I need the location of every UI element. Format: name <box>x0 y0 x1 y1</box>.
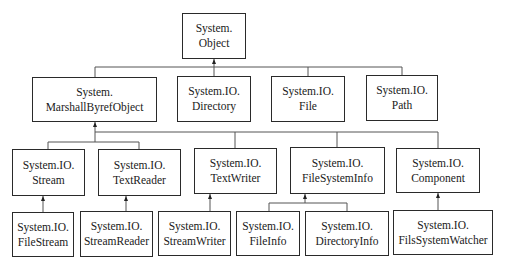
node-line: System.IO. <box>412 156 464 171</box>
arrow-head-icon <box>212 59 216 64</box>
node-stream-reader: System.IO. StreamReader <box>80 211 153 257</box>
node-directory: System.IO. Directory <box>177 76 251 122</box>
node-file-system-watcher: System.IO. FilsSystemWatcher <box>393 210 493 255</box>
node-line: System.IO. <box>188 84 240 99</box>
node-line: System. <box>196 21 233 36</box>
node-text-writer: System.IO. TextWriter <box>194 148 277 194</box>
node-line: System.IO. <box>23 158 75 173</box>
node-line: System.IO. <box>114 158 166 173</box>
node-line: Object <box>199 36 230 51</box>
node-line: System.IO. <box>210 156 262 171</box>
node-line: System. <box>76 85 113 100</box>
node-marshal-byref-object: System. MarshallByrefObject <box>32 77 157 122</box>
node-line: FilsSystemWatcher <box>398 233 487 248</box>
node-line: TextWriter <box>211 171 261 186</box>
node-line: FileInfo <box>249 234 286 249</box>
node-line: System.IO. <box>417 218 469 233</box>
node-line: StreamWriter <box>163 234 225 249</box>
node-line: System.IO. <box>282 84 334 99</box>
node-path: System.IO. Path <box>366 75 438 121</box>
node-line: DirectoryInfo <box>315 234 378 249</box>
node-line: MarshallByrefObject <box>46 100 144 115</box>
node-file: System.IO. File <box>271 76 345 122</box>
node-line: Path <box>392 98 412 113</box>
node-line: Directory <box>192 99 236 114</box>
node-line: System.IO. <box>376 83 428 98</box>
node-line: Stream <box>32 173 65 188</box>
node-system-object: System. Object <box>182 13 246 59</box>
node-line: System.IO. <box>321 219 373 234</box>
node-line: Component <box>411 171 465 186</box>
node-component: System.IO. Component <box>396 148 480 193</box>
node-file-system-info: System.IO. FileSystemInfo <box>290 147 385 194</box>
node-line: System.IO. <box>242 219 294 234</box>
node-line: FileStream <box>18 235 68 250</box>
node-line: System.IO. <box>169 219 221 234</box>
node-file-info: System.IO. FileInfo <box>236 211 300 256</box>
node-line: StreamReader <box>84 234 149 249</box>
node-line: File <box>299 99 317 114</box>
node-line: FileSystemInfo <box>302 171 373 186</box>
node-directory-info: System.IO. DirectoryInfo <box>305 211 389 256</box>
node-line: TextReader <box>113 173 166 188</box>
node-stream-writer: System.IO. StreamWriter <box>158 211 231 256</box>
node-file-stream: System.IO. FileStream <box>12 212 74 257</box>
node-line: System.IO. <box>312 156 364 171</box>
node-stream: System.IO. Stream <box>12 149 85 196</box>
node-line: System.IO. <box>91 219 143 234</box>
node-line: System.IO. <box>17 220 69 235</box>
node-text-reader: System.IO. TextReader <box>98 149 181 196</box>
